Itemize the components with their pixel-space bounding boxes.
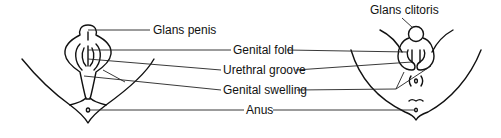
female-figure [351,27,481,121]
male-figure [22,25,154,123]
genital-development-diagram: Glans penis Glans clitoris Genital fold … [0,0,501,138]
label-genital-fold: Genital fold [233,43,294,57]
label-glans-clitoris: Glans clitoris [370,3,439,17]
label-genital-swelling: Genital swelling [223,83,307,97]
label-anus: Anus [246,103,273,117]
label-urethral-groove: Urethral groove [223,63,306,77]
label-glans-penis: Glans penis [153,23,216,37]
